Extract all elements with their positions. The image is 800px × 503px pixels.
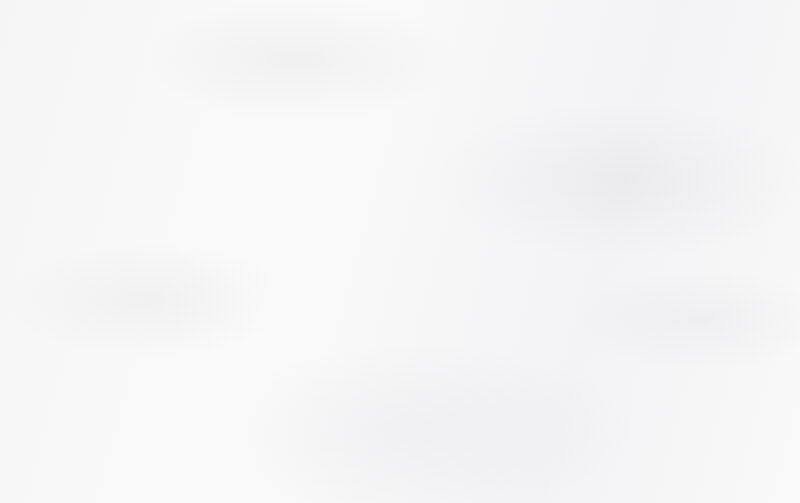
y-tick-label: 0.4 — [49, 246, 73, 265]
x-tick-label: 2008 — [229, 415, 267, 437]
y-tick-label: 0.2 — [49, 319, 73, 338]
chart-legend: MEE GEE — [0, 455, 800, 487]
x-tick-label: 2014 — [663, 415, 701, 437]
legend-label-gee: GEE — [466, 460, 504, 482]
legend-entry-gee: GEE — [415, 460, 504, 482]
y-tick-label: 0.3 — [49, 283, 73, 302]
series-line-gee — [103, 57, 754, 123]
y-tick-label: 0.5 — [49, 209, 73, 228]
x-tick-label: 2015 — [735, 415, 773, 437]
x-tick-label: 2011 — [446, 415, 483, 437]
y-tick-label: 0.7 — [49, 135, 73, 154]
y-tick-label: 0.1 — [49, 356, 73, 375]
x-tick-label: 2007 — [156, 415, 194, 437]
chart-screenshot: 00.10.20.30.40.50.60.70.80.91 2006200720… — [0, 0, 800, 503]
legend-entry-mee: MEE — [297, 460, 389, 482]
x-tick-label: 2006 — [84, 415, 122, 437]
series-line-mee — [103, 88, 754, 171]
x-tick-label: 2012 — [518, 415, 556, 437]
legend-swatch-gee-icon — [415, 470, 461, 473]
y-tick-label: 0.8 — [49, 99, 73, 118]
x-tick-label: 2010 — [373, 415, 411, 437]
x-tick-label: 2009 — [301, 415, 339, 437]
legend-label-mee: MEE — [348, 460, 389, 482]
x-tick-label: 2013 — [590, 415, 628, 437]
y-tick-label: 0.6 — [49, 172, 73, 191]
y-tick-label: 1 — [64, 25, 74, 44]
legend-swatch-mee-icon — [297, 469, 343, 473]
x-axis-tick-labels: 2006200720082009201020112012201320142015 — [0, 403, 800, 443]
y-tick-label: 0.9 — [49, 62, 73, 81]
